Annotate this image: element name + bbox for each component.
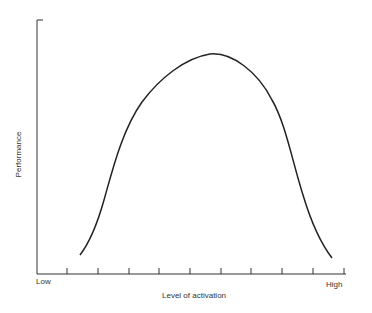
- x-axis-low-label: Low: [36, 277, 51, 286]
- y-axis-title: Performance: [14, 125, 23, 185]
- x-axis-ticks: [67, 268, 344, 274]
- chart-canvas: [0, 0, 372, 313]
- x-axis-title: Level of activation: [162, 291, 226, 300]
- performance-curve: [80, 54, 332, 258]
- x-axis-high-label: High: [326, 280, 342, 289]
